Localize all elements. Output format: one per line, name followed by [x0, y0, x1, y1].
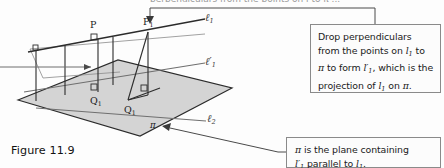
plane-label-pi: π	[150, 120, 156, 130]
right-angle-marker-left	[33, 45, 38, 50]
figure-caption: Figure 11.9	[11, 144, 75, 157]
plane-callout: π is the plane containing l′1 parallel t…	[286, 137, 441, 168]
callout-line: Drop perpendiculars	[318, 30, 434, 44]
point-label-Q1: Q1	[124, 104, 136, 116]
callout-line: l′1 parallel to l1.	[295, 157, 434, 168]
projection-callout-leader	[146, 8, 375, 24]
line-label-l1-prime: ℓ′1	[205, 55, 216, 69]
point-label-P: P	[90, 19, 96, 30]
figure-page: perpendiculars from the points on l to π…	[0, 0, 444, 168]
callout-line: π is the plane containing	[295, 143, 434, 157]
left-leader-arrow	[0, 64, 91, 70]
projection-callout: Drop perpendiculars from the points on l…	[310, 24, 441, 93]
callout-line: π to form l′1, which is the	[318, 61, 434, 79]
line-label-l1: ℓ1	[205, 11, 214, 25]
callout-line: from the points on l1 to	[318, 44, 434, 62]
point-label-P1: P1	[143, 16, 153, 28]
point-label-Q: Q1	[90, 95, 102, 107]
plane-callout-leader	[162, 123, 286, 152]
callout-line: projection of l1 on π.	[318, 79, 434, 97]
line-l1	[28, 19, 205, 52]
plane-pi-fill	[18, 60, 232, 136]
line-label-l2: ℓ2	[207, 112, 216, 126]
